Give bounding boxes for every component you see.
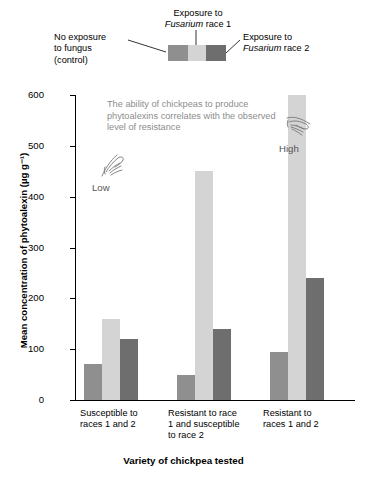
bar-group — [262, 95, 355, 400]
y-axis-ticks: 0100200300400500600 — [0, 0, 75, 484]
x-category-label-2-line-0: Resistant to — [263, 408, 351, 419]
x-category-label-1-line-2: to race 2 — [168, 430, 260, 441]
y-tick-0 — [70, 400, 75, 401]
y-tick-600 — [70, 95, 75, 96]
y-tick-500 — [70, 146, 75, 147]
annotation-low-label: Low — [92, 182, 110, 193]
bar — [102, 319, 120, 400]
x-category-label-1-line-1: 1 and susceptible — [168, 419, 260, 430]
x-category-label-1: Resistant to race1 and susceptibleto rac… — [168, 408, 260, 442]
y-tick-label-0: 0 — [8, 394, 44, 405]
y-tick-label-600: 600 — [8, 89, 44, 100]
x-category-label-1-line-0: Resistant to race — [168, 408, 260, 419]
x-category-label-0: Susceptible toraces 1 and 2 — [80, 408, 168, 430]
leader-line-race2 — [226, 40, 240, 53]
bar — [84, 364, 102, 400]
plot-area — [76, 95, 355, 400]
x-category-label-0-line-0: Susceptible to — [80, 408, 168, 419]
x-axis-line — [75, 400, 355, 401]
x-category-label-2-line-1: races 1 and 2 — [263, 419, 351, 430]
pointing-hand-icon-low — [96, 152, 130, 178]
bar — [288, 95, 306, 400]
bar — [177, 375, 195, 400]
y-tick-400 — [70, 197, 75, 198]
y-tick-100 — [70, 349, 75, 350]
bar-group — [169, 95, 262, 400]
bar — [120, 339, 138, 400]
bar — [195, 171, 213, 400]
bar — [306, 278, 324, 400]
x-category-label-2: Resistant toraces 1 and 2 — [263, 408, 351, 430]
x-category-label-0-line-1: races 1 and 2 — [80, 419, 168, 430]
annotation-text: The ability of chickpeas to produce phyt… — [107, 99, 283, 134]
leader-line-control — [128, 40, 166, 52]
bar — [270, 352, 288, 400]
bar-group — [76, 95, 169, 400]
bar — [213, 329, 231, 400]
y-tick-200 — [70, 298, 75, 299]
y-axis-title: Mean concentration of phytoalexin (µg g⁻… — [18, 136, 29, 366]
y-tick-300 — [70, 248, 75, 249]
pointing-hand-icon-high — [283, 112, 317, 138]
x-axis-title: Variety of chickpea tested — [0, 455, 367, 466]
annotation-high-label: High — [279, 143, 299, 154]
chart-figure: No exposure to fungus (control) Exposure… — [0, 0, 367, 484]
